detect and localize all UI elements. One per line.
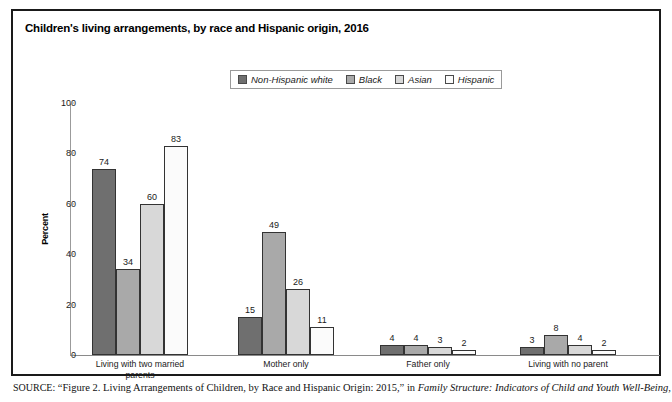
bar-value-label: 2 xyxy=(452,338,476,348)
bar[interactable] xyxy=(262,232,286,355)
bar[interactable] xyxy=(520,347,544,355)
source-keyword: SOURCE: xyxy=(13,382,55,393)
source-publication-title: Family Structure: Indicators of Child an… xyxy=(418,382,671,393)
bar-value-label: 60 xyxy=(140,192,164,202)
bar-slot: 8 xyxy=(544,103,568,355)
x-axis-group-label: Living with no parent xyxy=(488,359,648,370)
bar-value-label: 49 xyxy=(262,220,286,230)
bar-slot: 26 xyxy=(286,103,310,355)
legend-item-asian: Asian xyxy=(395,74,432,85)
legend-swatch-icon xyxy=(238,75,247,84)
bar[interactable] xyxy=(404,345,428,355)
legend-label: Non-Hispanic white xyxy=(251,74,333,85)
bar-value-label: 3 xyxy=(520,335,544,345)
bar-group: 4432Father only xyxy=(380,103,476,355)
bar-slot: 2 xyxy=(592,103,616,355)
bar-slot: 2 xyxy=(452,103,476,355)
bar[interactable] xyxy=(380,345,404,355)
y-axis-tick-mark xyxy=(70,103,74,104)
y-axis-title: Percent xyxy=(40,213,50,245)
legend-swatch-icon xyxy=(395,75,404,84)
legend-swatch-icon xyxy=(445,75,454,84)
bar-slot: 15 xyxy=(238,103,262,355)
bar-value-label: 74 xyxy=(92,157,116,167)
bar[interactable] xyxy=(140,204,164,355)
bar-slot: 49 xyxy=(262,103,286,355)
y-axis-tick-mark xyxy=(70,153,74,154)
y-axis-tick-mark xyxy=(70,355,74,356)
legend-item-black: Black xyxy=(346,74,382,85)
bar[interactable] xyxy=(92,169,116,355)
bar[interactable] xyxy=(116,269,140,355)
bar-slot: 4 xyxy=(380,103,404,355)
bar-value-label: 4 xyxy=(380,333,404,343)
bar[interactable] xyxy=(164,146,188,355)
bar[interactable] xyxy=(544,335,568,355)
figure-frame: Children's living arrangements, by race … xyxy=(11,9,661,376)
x-axis-line xyxy=(70,355,660,356)
bar-value-label: 83 xyxy=(164,134,188,144)
bar-slot: 83 xyxy=(164,103,188,355)
bar-group: 3842Living with no parent xyxy=(520,103,616,355)
bar-slot: 34 xyxy=(116,103,140,355)
bar-slot: 4 xyxy=(568,103,592,355)
bar-value-label: 2 xyxy=(592,338,616,348)
bar-value-label: 34 xyxy=(116,257,140,267)
x-axis-group-label: Living with two married parents xyxy=(60,359,220,381)
bar-slot: 4 xyxy=(404,103,428,355)
source-note: SOURCE: “Figure 2. Living Arrangements o… xyxy=(13,382,665,394)
bar-slot: 11 xyxy=(310,103,334,355)
bar-value-label: 4 xyxy=(404,333,428,343)
y-axis-line xyxy=(70,103,71,355)
bar-value-label: 3 xyxy=(428,335,452,345)
bar-slot: 3 xyxy=(428,103,452,355)
legend-item-hispanic: Hispanic xyxy=(445,74,494,85)
y-axis-tick-mark xyxy=(70,254,74,255)
bar-value-label: 4 xyxy=(568,333,592,343)
y-axis-tick-mark xyxy=(70,203,74,204)
legend-item-non-hispanic-white: Non-Hispanic white xyxy=(238,74,333,85)
plot-area: Percent 020406080100 74346083Living with… xyxy=(70,103,660,355)
bar-value-label: 8 xyxy=(544,323,568,333)
bar[interactable] xyxy=(568,345,592,355)
legend-label: Hispanic xyxy=(458,74,494,85)
bar[interactable] xyxy=(428,347,452,355)
bar-group: 15492611Mother only xyxy=(238,103,334,355)
legend-label: Black xyxy=(359,74,382,85)
bar-slot: 60 xyxy=(140,103,164,355)
legend-label: Asian xyxy=(408,74,432,85)
bar-value-label: 26 xyxy=(286,277,310,287)
y-axis-tick-mark xyxy=(70,304,74,305)
bar[interactable] xyxy=(592,350,616,355)
chart-legend: Non-Hispanic white Black Asian Hispanic xyxy=(230,70,502,89)
bar[interactable] xyxy=(286,289,310,355)
bar-slot: 74 xyxy=(92,103,116,355)
bar-value-label: 11 xyxy=(310,315,334,325)
source-body: “Figure 2. Living Arrangements of Childr… xyxy=(55,382,417,393)
bar-slot: 3 xyxy=(520,103,544,355)
bar-group: 74346083Living with two married parents xyxy=(92,103,188,355)
bar[interactable] xyxy=(452,350,476,355)
x-axis-group-label: Father only xyxy=(348,359,508,370)
bar-value-label: 15 xyxy=(238,305,262,315)
chart-title: Children's living arrangements, by race … xyxy=(25,22,369,34)
x-axis-group-label: Mother only xyxy=(206,359,366,370)
legend-swatch-icon xyxy=(346,75,355,84)
bar[interactable] xyxy=(238,317,262,355)
bar[interactable] xyxy=(310,327,334,355)
